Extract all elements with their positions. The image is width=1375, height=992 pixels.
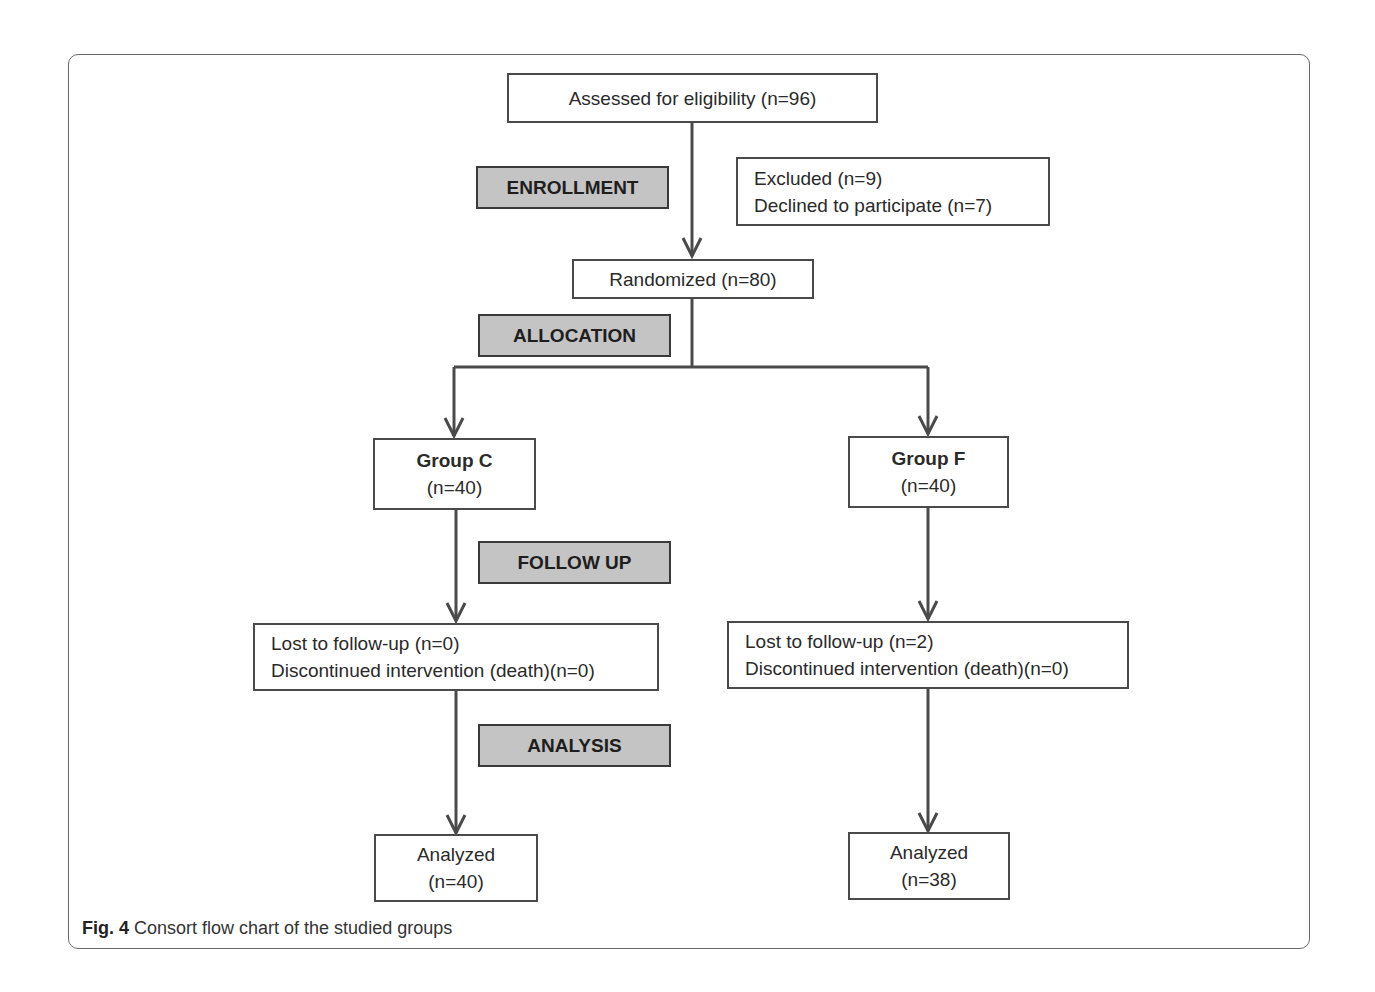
- stage-analysis-label: ANALYSIS: [527, 735, 621, 757]
- stage-follow-up-label: FOLLOW UP: [518, 552, 632, 574]
- analyzed-c-title: Analyzed: [417, 841, 495, 868]
- analyzed-f-n: (n=38): [901, 866, 956, 893]
- group-c-title: Group C: [417, 447, 493, 474]
- analyzed-c-n: (n=40): [428, 868, 483, 895]
- stage-enrollment: ENROLLMENT: [476, 166, 669, 209]
- group-f-box: Group F (n=40): [848, 436, 1009, 508]
- caption-text: Consort flow chart of the studied groups: [129, 918, 452, 938]
- stage-allocation-label: ALLOCATION: [513, 325, 636, 347]
- excluded-box: Excluded (n=9) Declined to participate (…: [736, 157, 1050, 226]
- group-f-n: (n=40): [901, 472, 956, 499]
- stage-analysis: ANALYSIS: [478, 724, 671, 767]
- followup-c-box: Lost to follow-up (n=0) Discontinued int…: [253, 623, 659, 691]
- excluded-line1: Excluded (n=9): [754, 165, 882, 192]
- connector-lines: [0, 0, 1375, 992]
- stage-follow-up: FOLLOW UP: [478, 541, 671, 584]
- analyzed-f-box: Analyzed (n=38): [848, 832, 1010, 900]
- followup-f-box: Lost to follow-up (n=2) Discontinued int…: [727, 621, 1129, 689]
- figure-caption: Fig. 4 Consort flow chart of the studied…: [82, 918, 452, 939]
- randomized-label: Randomized (n=80): [609, 266, 776, 293]
- group-c-n: (n=40): [427, 474, 482, 501]
- randomized-box: Randomized (n=80): [572, 259, 814, 299]
- excluded-line2: Declined to participate (n=7): [754, 192, 992, 219]
- followup-f-line1: Lost to follow-up (n=2): [745, 628, 934, 655]
- followup-f-line2: Discontinued intervention (death)(n=0): [745, 655, 1069, 682]
- assessed-box: Assessed for eligibility (n=96): [507, 73, 878, 123]
- assessed-label: Assessed for eligibility (n=96): [569, 85, 817, 112]
- group-c-box: Group C (n=40): [373, 438, 536, 510]
- followup-c-line2: Discontinued intervention (death)(n=0): [271, 657, 595, 684]
- stage-enrollment-label: ENROLLMENT: [507, 177, 639, 199]
- group-f-title: Group F: [892, 445, 966, 472]
- followup-c-line1: Lost to follow-up (n=0): [271, 630, 460, 657]
- caption-label: Fig. 4: [82, 918, 129, 938]
- analyzed-f-title: Analyzed: [890, 839, 968, 866]
- stage-allocation: ALLOCATION: [478, 314, 671, 357]
- analyzed-c-box: Analyzed (n=40): [374, 834, 538, 902]
